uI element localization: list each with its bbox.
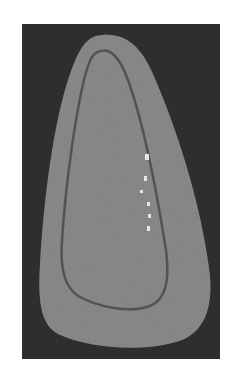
object-photo (0, 0, 237, 370)
